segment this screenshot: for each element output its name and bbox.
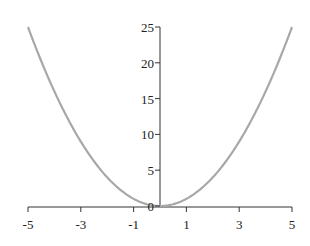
y-tick-label: 5 [148,163,155,178]
y-tick-label: 0 [148,199,155,214]
y-tick-label: 10 [141,127,154,142]
x-tick-label: 5 [289,217,296,232]
x-tick-label: -3 [75,217,86,232]
x-tick-label: -5 [23,217,34,232]
y-tick-label: 25 [141,20,154,35]
x-tick-label: -1 [128,217,139,232]
parabola-chart: -5-3-1135 0510152025 [0,0,310,246]
y-axis-ticks: 0510152025 [141,20,160,214]
x-axis-ticks: -5-3-1135 [23,207,296,232]
x-tick-label: 1 [183,217,190,232]
y-tick-label: 15 [141,92,154,107]
x-tick-label: 3 [236,217,243,232]
y-tick-label: 20 [141,56,154,71]
